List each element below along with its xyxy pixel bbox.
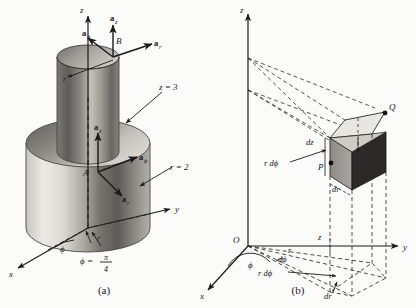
- panel-b-group: [208, 14, 398, 296]
- axis-label-x-b: x: [199, 291, 204, 301]
- label-phi-equals-pi-over-4: ϕ = π 4: [80, 253, 112, 274]
- caption-panel-b: (b): [292, 284, 305, 297]
- label-point-Q: Q: [389, 102, 396, 112]
- axis-label-y-b: y: [402, 242, 407, 252]
- label-phi-b: ϕ: [248, 260, 253, 270]
- panel-a-group: [18, 16, 172, 268]
- phi-fraction-numerator: π: [104, 253, 109, 262]
- label-r-dphi-upper: r dϕ: [264, 158, 279, 168]
- phi-equals-text: ϕ =: [80, 256, 93, 266]
- axis-label-z-b: z: [239, 5, 244, 15]
- label-r-equals-2: r = 2: [170, 162, 189, 172]
- label-z-equals-3: z = 3: [158, 82, 178, 92]
- point-Q-marker: [383, 111, 388, 116]
- label-phi-angle-a: ϕ: [60, 244, 65, 254]
- svg-text:r: r: [159, 43, 162, 50]
- label-dr-lower: dr: [324, 291, 332, 301]
- a-z-label-B: a z: [110, 13, 118, 25]
- label-point-P: P: [317, 162, 324, 172]
- z3-leader: [126, 92, 162, 123]
- a-phi-label-B: a ϕ: [82, 28, 91, 40]
- svg-text:z: z: [98, 127, 102, 134]
- figure-root: z y x z = 3 r = 2 B A a ϕ a z a r a z a …: [0, 0, 416, 308]
- label-dphi-b: dϕ: [278, 254, 287, 264]
- phi-fraction-denominator: 4: [104, 265, 108, 274]
- label-z-height: z: [317, 232, 322, 242]
- caption-panel-a: (a): [98, 284, 111, 297]
- label-origin-O: O: [233, 235, 240, 245]
- r-dphi-leader-lower: [288, 272, 336, 276]
- figure-svg: z y x z = 3 r = 2 B A a ϕ a z a r a z a …: [0, 0, 416, 308]
- label-point-A: A: [82, 168, 89, 178]
- label-dr-upper: dr: [332, 184, 340, 194]
- label-dz: dz: [306, 137, 314, 147]
- r-dphi-leader-upper: [290, 150, 326, 162]
- label-point-B: B: [116, 36, 122, 46]
- axis-label-x-a: x: [8, 269, 13, 279]
- svg-text:z: z: [114, 18, 118, 25]
- axis-label-y-a: y: [174, 204, 179, 214]
- axis-label-z-a: z: [79, 5, 84, 15]
- label-r-dphi-lower: r dϕ: [258, 268, 273, 278]
- a-r-label-B: a r: [154, 38, 162, 50]
- axis-x-b: [208, 246, 248, 290]
- point-P-marker: [329, 161, 334, 166]
